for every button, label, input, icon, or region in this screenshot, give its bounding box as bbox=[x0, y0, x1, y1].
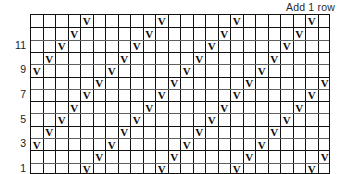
chart-cell bbox=[244, 102, 257, 113]
chart-cell bbox=[231, 41, 244, 52]
chart-cell bbox=[144, 90, 157, 101]
chart-cell: V bbox=[119, 53, 132, 64]
chart-cell bbox=[131, 65, 144, 76]
chart-cell bbox=[181, 164, 194, 174]
slip-stitch-v-symbol: V bbox=[281, 115, 293, 126]
chart-cell bbox=[294, 53, 307, 64]
chart-cell bbox=[94, 53, 107, 64]
chart-cell bbox=[244, 90, 257, 101]
chart-cell bbox=[319, 65, 332, 76]
slip-stitch-v-symbol: V bbox=[119, 127, 131, 138]
chart-cell bbox=[181, 28, 194, 39]
chart-cell bbox=[81, 151, 94, 162]
chart-cell bbox=[281, 127, 294, 138]
chart-cell bbox=[144, 41, 157, 52]
chart-cell bbox=[206, 65, 219, 76]
slip-stitch-v-symbol: V bbox=[219, 28, 231, 39]
chart-cell bbox=[219, 78, 232, 89]
chart-cell bbox=[206, 164, 219, 174]
chart-cell bbox=[69, 53, 82, 64]
chart-cell bbox=[244, 53, 257, 64]
slip-stitch-v-symbol: V bbox=[206, 115, 218, 126]
slip-stitch-v-symbol: V bbox=[206, 41, 218, 52]
row-number-label: 9 bbox=[20, 64, 26, 75]
chart-cell bbox=[256, 114, 269, 125]
chart-cell bbox=[181, 90, 194, 101]
chart-cell bbox=[31, 15, 44, 27]
chart-cell bbox=[294, 41, 307, 52]
row-number-label: 1 bbox=[20, 163, 26, 174]
chart-row: VVVV bbox=[31, 27, 329, 39]
chart-row: VVVV bbox=[31, 138, 329, 150]
chart-cell: V bbox=[81, 90, 94, 101]
slip-stitch-v-symbol: V bbox=[231, 164, 243, 174]
chart-cell bbox=[194, 28, 207, 39]
slip-stitch-v-symbol: V bbox=[181, 139, 193, 150]
chart-cell: V bbox=[231, 90, 244, 101]
chart-row: VVVV bbox=[31, 77, 329, 89]
chart-cell: V bbox=[206, 114, 219, 125]
chart-cell bbox=[44, 139, 57, 150]
chart-cell bbox=[119, 164, 132, 174]
stitch-grid: VVVVVVVVVVVVVVVVVVVVVVVVVVVVVVVVVVVVVVVV… bbox=[30, 14, 330, 174]
chart-cell bbox=[219, 151, 232, 162]
chart-cell bbox=[106, 114, 119, 125]
chart-cell bbox=[81, 28, 94, 39]
chart-cell bbox=[319, 164, 332, 174]
chart-cell bbox=[44, 15, 57, 27]
chart-cell bbox=[156, 102, 169, 113]
row-number-label: 5 bbox=[20, 114, 26, 125]
chart-cell bbox=[56, 53, 69, 64]
chart-cell bbox=[131, 139, 144, 150]
slip-stitch-v-symbol: V bbox=[244, 78, 256, 89]
slip-stitch-v-symbol: V bbox=[319, 152, 332, 163]
slip-stitch-v-symbol: V bbox=[81, 90, 93, 101]
row-number-label: 7 bbox=[20, 89, 26, 100]
chart-row: VVVV bbox=[31, 15, 329, 27]
chart-cell bbox=[169, 139, 182, 150]
chart-caption: Add 1 row bbox=[286, 1, 335, 13]
chart-cell bbox=[281, 102, 294, 113]
chart-cell bbox=[81, 78, 94, 89]
chart-cell bbox=[281, 139, 294, 150]
chart-cell bbox=[194, 65, 207, 76]
chart-cell bbox=[219, 164, 232, 174]
chart-cell bbox=[269, 65, 282, 76]
chart-cell bbox=[56, 90, 69, 101]
chart-cell: V bbox=[294, 102, 307, 113]
chart-cell bbox=[231, 102, 244, 113]
slip-stitch-v-symbol: V bbox=[44, 53, 56, 64]
chart-cell bbox=[306, 151, 319, 162]
chart-cell bbox=[306, 139, 319, 150]
chart-cell: V bbox=[231, 15, 244, 27]
chart-cell: V bbox=[69, 28, 82, 39]
chart-cell bbox=[44, 90, 57, 101]
chart-cell bbox=[194, 139, 207, 150]
chart-cell bbox=[306, 127, 319, 138]
slip-stitch-v-symbol: V bbox=[194, 127, 206, 138]
chart-cell bbox=[256, 28, 269, 39]
chart-cell: V bbox=[144, 28, 157, 39]
chart-cell bbox=[56, 151, 69, 162]
chart-cell bbox=[194, 90, 207, 101]
chart-cell bbox=[94, 28, 107, 39]
chart-cell bbox=[206, 53, 219, 64]
chart-cell bbox=[81, 139, 94, 150]
chart-cell bbox=[294, 78, 307, 89]
chart-cell bbox=[31, 102, 44, 113]
chart-cell bbox=[181, 15, 194, 27]
chart-row: VVVV bbox=[31, 113, 329, 125]
chart-cell bbox=[156, 78, 169, 89]
chart-cell bbox=[256, 41, 269, 52]
chart-cell bbox=[169, 127, 182, 138]
chart-cell bbox=[194, 102, 207, 113]
slip-stitch-v-symbol: V bbox=[94, 152, 106, 163]
chart-cell bbox=[156, 127, 169, 138]
chart-cell bbox=[294, 15, 307, 27]
chart-cell bbox=[181, 114, 194, 125]
chart-cell bbox=[131, 78, 144, 89]
slip-stitch-v-symbol: V bbox=[269, 53, 281, 64]
chart-cell bbox=[294, 127, 307, 138]
chart-cell bbox=[281, 90, 294, 101]
chart-row: VVVV bbox=[31, 101, 329, 113]
